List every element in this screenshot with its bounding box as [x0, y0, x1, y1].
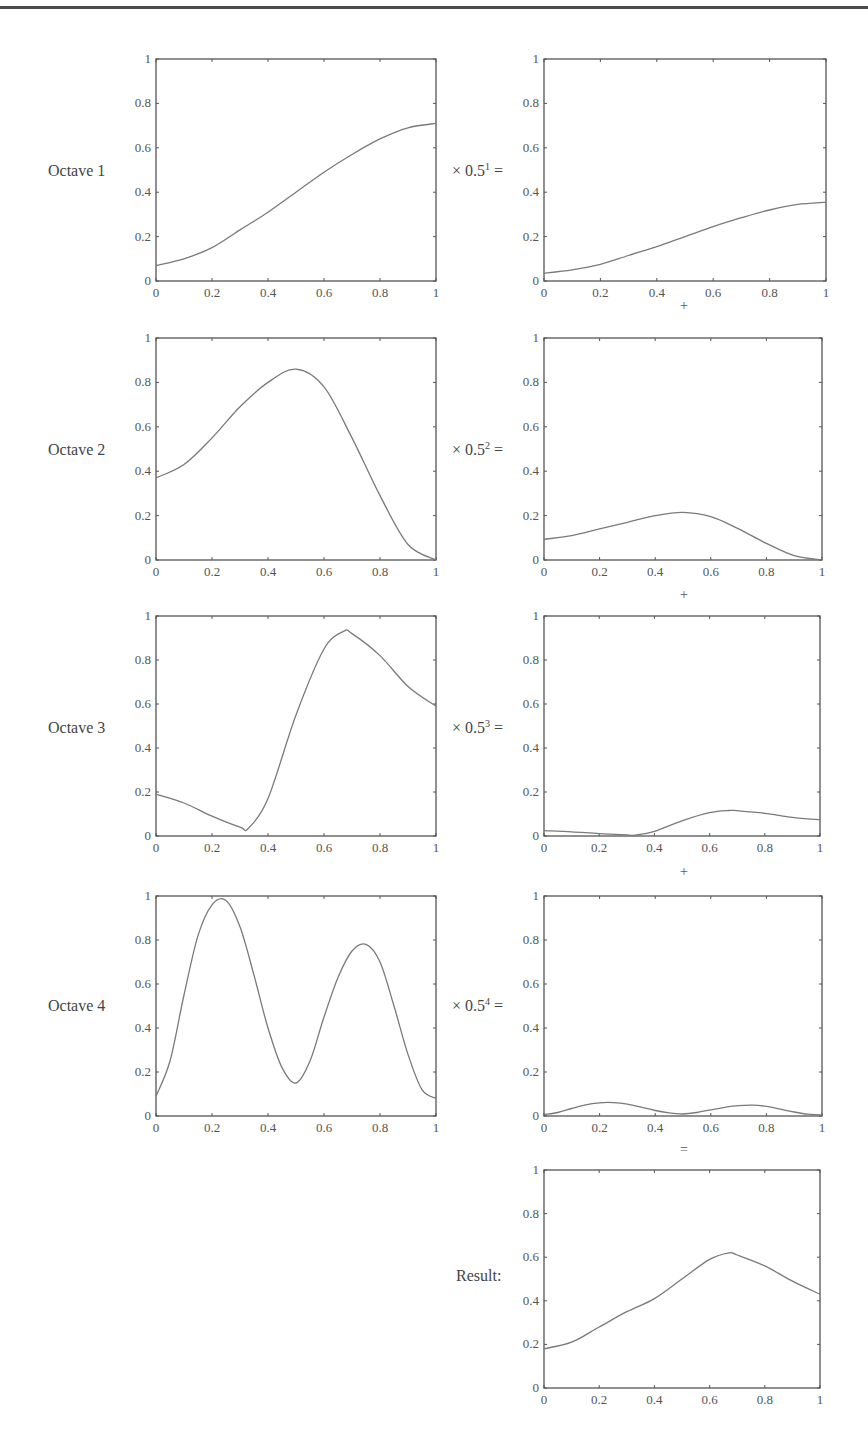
x-tick-label: 0 [541, 840, 548, 855]
y-tick-label: 0.8 [523, 652, 539, 667]
x-tick-label: 1 [823, 285, 830, 300]
axes-frame [156, 338, 436, 560]
multiplier-base: × 0.5 [452, 441, 485, 458]
chart-octave-4: 00.20.40.60.8100.20.40.60.81 [135, 888, 440, 1135]
data-line [544, 202, 826, 273]
x-tick-label: 0.2 [591, 1120, 607, 1135]
x-tick-label: 0 [541, 1120, 548, 1135]
y-tick-label: 0.8 [523, 95, 539, 110]
x-tick-label: 0 [153, 1120, 160, 1135]
chart-octave-1-scaled: 00.20.40.60.8100.20.40.60.81 [523, 51, 830, 300]
x-tick-label: 0.8 [372, 285, 388, 300]
x-tick-label: 0.2 [204, 564, 220, 579]
x-tick-label: 1 [433, 564, 440, 579]
equals-sign: = [490, 441, 503, 458]
y-tick-label: 0.4 [523, 1293, 540, 1308]
x-tick-label: 1 [433, 1120, 440, 1135]
x-tick-label: 0.4 [260, 1120, 277, 1135]
y-tick-label: 0.4 [523, 184, 540, 199]
y-tick-label: 0.2 [523, 229, 539, 244]
chart-octave-3: 00.20.40.60.8100.20.40.60.81 [135, 608, 440, 855]
y-tick-label: 0.6 [135, 976, 152, 991]
y-tick-label: 0.2 [523, 1336, 539, 1351]
y-tick-label: 0.8 [135, 932, 151, 947]
y-tick-label: 0.4 [135, 1020, 152, 1035]
x-tick-label: 0.6 [703, 564, 720, 579]
axes-frame [544, 616, 820, 836]
y-tick-label: 0.8 [523, 374, 539, 389]
chart-octave-3-scaled: 00.20.40.60.8100.20.40.60.81 [523, 608, 824, 855]
x-tick-label: 0.2 [591, 564, 607, 579]
y-tick-label: 0.2 [135, 1064, 151, 1079]
chart-octave-2-scaled: 00.20.40.60.8100.20.40.60.81 [523, 330, 826, 579]
y-tick-label: 0.6 [523, 976, 540, 991]
y-tick-label: 0.4 [135, 184, 152, 199]
x-tick-label: 0 [541, 564, 548, 579]
row-label-octave-1: Octave 1 [48, 162, 105, 180]
x-tick-label: 0.8 [758, 564, 774, 579]
equals-sign: = [490, 997, 503, 1014]
x-tick-label: 0.8 [758, 1120, 774, 1135]
x-tick-label: 1 [819, 1120, 826, 1135]
x-tick-label: 0 [153, 840, 160, 855]
chart-octave-1: 00.20.40.60.8100.20.40.60.81 [135, 51, 440, 300]
multiplier-4: × 0.54 = [452, 997, 503, 1015]
octave-figure: 00.20.40.60.8100.20.40.60.8100.20.40.60.… [0, 0, 868, 1452]
x-tick-label: 0.6 [703, 1120, 720, 1135]
x-tick-label: 0.4 [649, 285, 666, 300]
y-tick-label: 0.2 [523, 508, 539, 523]
data-line [156, 123, 436, 265]
data-line [544, 810, 820, 835]
x-tick-label: 0.6 [701, 1392, 718, 1407]
x-tick-label: 0.8 [372, 840, 388, 855]
y-tick-label: 0.2 [135, 229, 151, 244]
data-line [544, 1102, 822, 1114]
row-label-octave-2: Octave 2 [48, 441, 105, 459]
x-tick-label: 0.4 [260, 564, 277, 579]
data-line [544, 1253, 820, 1349]
y-tick-label: 0 [145, 273, 152, 288]
x-tick-label: 0.6 [701, 840, 718, 855]
x-tick-label: 0.4 [647, 1120, 664, 1135]
y-tick-label: 0.8 [523, 1206, 539, 1221]
x-tick-label: 0.4 [646, 840, 663, 855]
x-tick-label: 0.4 [647, 564, 664, 579]
row-label-octave-4: Octave 4 [48, 997, 105, 1015]
y-tick-label: 0.8 [135, 374, 151, 389]
plus-operator-1: + [680, 298, 688, 314]
y-tick-label: 0 [533, 828, 540, 843]
y-tick-label: 1 [145, 330, 152, 345]
y-tick-label: 0.2 [523, 784, 539, 799]
x-tick-label: 1 [817, 1392, 824, 1407]
multiplier-1: × 0.51 = [452, 162, 503, 180]
y-tick-label: 0.6 [523, 696, 540, 711]
y-tick-label: 0.8 [135, 652, 151, 667]
y-tick-label: 0.6 [523, 140, 540, 155]
x-tick-label: 0.2 [204, 285, 220, 300]
x-tick-label: 0.2 [591, 1392, 607, 1407]
y-tick-label: 0 [145, 1108, 152, 1123]
x-tick-label: 0.8 [757, 840, 773, 855]
x-tick-label: 0.2 [204, 1120, 220, 1135]
x-tick-label: 0 [541, 1392, 548, 1407]
x-tick-label: 1 [819, 564, 826, 579]
equals-sign: = [490, 162, 503, 179]
y-tick-label: 1 [533, 1162, 540, 1177]
plus-operator-2: + [680, 587, 688, 603]
y-tick-label: 1 [533, 51, 540, 66]
y-tick-label: 0.6 [135, 419, 152, 434]
x-tick-label: 0.2 [204, 840, 220, 855]
y-tick-label: 0 [533, 1108, 540, 1123]
chart-octave-2: 00.20.40.60.8100.20.40.60.81 [135, 330, 440, 579]
y-tick-label: 0.6 [523, 1249, 540, 1264]
result-label: Result: [456, 1267, 501, 1285]
x-tick-label: 0.8 [372, 564, 388, 579]
y-tick-label: 0 [533, 273, 540, 288]
data-line [544, 512, 822, 560]
x-tick-label: 0.4 [260, 840, 277, 855]
y-tick-label: 0 [533, 1380, 540, 1395]
y-tick-label: 1 [533, 330, 540, 345]
y-tick-label: 0.4 [523, 740, 540, 755]
axes-frame [156, 616, 436, 836]
chart-octave-4-scaled: 00.20.40.60.8100.20.40.60.81 [523, 888, 826, 1135]
